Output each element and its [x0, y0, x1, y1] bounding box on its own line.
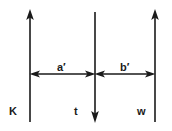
- ray-diagram-figure: K t w a′ b′: [0, 0, 172, 131]
- ray-label-K: K: [9, 105, 17, 117]
- diagram-canvas: [0, 0, 172, 131]
- dimension-label-b-prime: b′: [120, 61, 129, 73]
- vertical-ray-t: [91, 12, 99, 123]
- dimension-label-a-prime: a′: [57, 61, 66, 73]
- ray-label-w: w: [137, 105, 146, 117]
- vertical-ray-K: [26, 9, 34, 122]
- ray-label-t: t: [74, 105, 78, 117]
- vertical-ray-w: [151, 9, 159, 122]
